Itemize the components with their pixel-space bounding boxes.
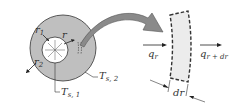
label-qr: qr	[148, 49, 158, 61]
differential-element	[170, 11, 191, 82]
label-r: r	[62, 30, 67, 40]
qr-arrowhead	[162, 43, 167, 47]
ts2-leader	[85, 72, 98, 77]
label-qrdr: qr + dr	[200, 49, 228, 61]
dr-arrowhead-left	[163, 84, 169, 88]
label-r2: r2	[34, 57, 43, 69]
label-r1: r1	[35, 25, 44, 37]
bore-center-lines	[45, 40, 65, 60]
label-ts1: Ts, 1	[61, 87, 80, 99]
label-ts2: Ts, 2	[99, 71, 118, 83]
dr-arrowhead-right	[189, 96, 194, 99]
label-dr: dr	[173, 88, 184, 98]
dr-ext-right	[186, 84, 188, 96]
dr-ext-left	[168, 80, 170, 92]
qrdr-arrowhead	[217, 43, 222, 47]
